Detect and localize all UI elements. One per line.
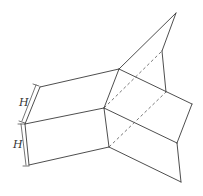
hidden-edge-lower xyxy=(109,92,166,147)
edge-right-outer xyxy=(177,104,192,143)
dimension-label-upper: H xyxy=(18,96,29,109)
edge-center-upper xyxy=(104,69,119,108)
edge-right-lower xyxy=(177,143,181,182)
edge-apex-left xyxy=(119,13,176,69)
edge-apex-right xyxy=(162,13,176,51)
dimension-label-lower: H xyxy=(12,138,23,151)
edge-top-left xyxy=(40,69,119,87)
edge-inner-vertical xyxy=(162,51,166,92)
edge-bottom-right xyxy=(109,147,181,182)
edge-mid-right xyxy=(104,108,177,143)
edge-bottom-left xyxy=(29,147,109,165)
geometry-diagram: H H xyxy=(0,0,203,196)
edge-top-right xyxy=(119,69,192,104)
edge-mid-left xyxy=(25,108,104,124)
edge-center-lower xyxy=(104,108,109,147)
hidden-edge-upper xyxy=(104,51,162,108)
